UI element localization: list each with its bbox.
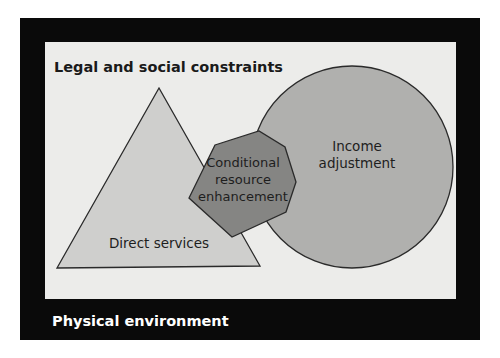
legal-social-constraints-label: Legal and social constraints [54, 59, 283, 75]
conditional-resource-enhancement-label-line-3: enhancement [198, 189, 288, 204]
conditional-resource-enhancement-label-line-2: resource [215, 172, 271, 187]
income-adjustment-label-line-1: Income [332, 138, 382, 154]
direct-services-label: Direct services [109, 235, 209, 251]
income-adjustment-label-line-2: adjustment [319, 155, 396, 171]
conditional-resource-enhancement-label-line-1: Conditional [206, 155, 280, 170]
physical-environment-label: Physical environment [52, 313, 229, 329]
diagram-canvas: Legal and social constraints Direct serv… [0, 0, 500, 358]
